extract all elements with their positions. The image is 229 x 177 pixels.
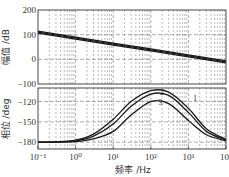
y-tick-label: −150	[17, 117, 36, 127]
frequency-x-axis-label: 频率 /Hz	[115, 164, 151, 175]
y-tick-label: 100	[23, 30, 37, 40]
y-tick-label: 200	[23, 5, 37, 15]
phase-panel: −180−150−12012310⁻¹10⁰10¹10²10³10⁴	[17, 88, 229, 162]
y-tick-label: 0	[32, 54, 37, 64]
x-tick-label: 10²	[145, 152, 157, 162]
y-tick-label: −180	[17, 137, 36, 147]
magnitude-panel: −1000100200	[17, 5, 226, 89]
y-tick-label: −100	[17, 79, 36, 89]
curve-3	[38, 33, 226, 63]
curve-2	[38, 32, 226, 62]
curve-label: 1	[193, 94, 197, 103]
magnitude-y-axis-label: 幅值 /dB	[0, 29, 11, 65]
x-tick-label: 10⁻¹	[30, 152, 47, 162]
x-tick-label: 10³	[183, 152, 195, 162]
curve-label: 3	[158, 98, 162, 107]
curve-label: 2	[160, 88, 164, 97]
y-tick-label: −120	[17, 97, 36, 107]
curve-3	[38, 101, 226, 143]
bode-plot: −1000100200 −180−150−12012310⁻¹10⁰10¹10²…	[0, 0, 229, 177]
curve-1	[38, 90, 226, 143]
curve-1	[38, 31, 226, 61]
x-tick-label: 10⁴	[220, 152, 229, 162]
x-tick-label: 10⁰	[69, 152, 82, 162]
phase-y-axis-label: 相位 /deg	[0, 99, 11, 140]
x-tick-label: 10¹	[107, 152, 119, 162]
